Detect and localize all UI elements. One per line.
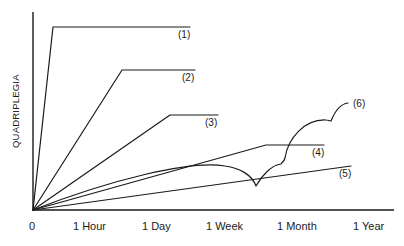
series-3-label: (3) — [205, 117, 217, 128]
x-tick-0: 0 — [29, 220, 35, 232]
series-4-label: (4) — [312, 147, 324, 158]
y-axis-label: QUADRIPLEGIA — [10, 74, 21, 148]
series-1-line — [33, 27, 190, 210]
series-5-line — [33, 166, 351, 210]
series-5-label: (5) — [339, 168, 351, 179]
x-tick-year: 1 Year — [353, 220, 385, 232]
x-tick-month: 1 Month — [277, 220, 317, 232]
series-3-line — [33, 115, 218, 210]
series-1-label: (1) — [178, 29, 190, 40]
series-6-label: (6) — [353, 98, 365, 109]
series-2-line — [33, 70, 195, 210]
chart: QUADRIPLEGIA 0 1 Hour 1 Day 1 Week 1 Mon… — [0, 0, 404, 246]
series-6-line — [33, 103, 348, 210]
x-tick-hour: 1 Hour — [73, 220, 106, 232]
x-tick-day: 1 Day — [142, 220, 171, 232]
series-4-line — [33, 145, 324, 210]
series-2-label: (2) — [182, 72, 194, 83]
x-tick-week: 1 Week — [206, 220, 244, 232]
